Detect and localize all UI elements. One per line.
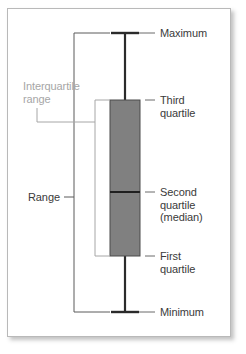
iqr-bracket — [95, 100, 110, 256]
iqr-leader-line — [37, 108, 95, 122]
label-first-quartile: First quartile — [160, 250, 195, 275]
label-second-quartile-median: Second quartile (median) — [160, 186, 203, 224]
iqr-box — [110, 100, 140, 256]
boxplot-graphic — [0, 0, 246, 354]
range-bracket — [74, 33, 110, 312]
label-maximum: Maximum — [160, 27, 207, 40]
boxplot-diagram-screenshot: Maximum Third quartile Second quartile (… — [0, 0, 246, 354]
label-range: Range — [28, 191, 60, 204]
label-third-quartile: Third quartile — [160, 94, 195, 119]
label-minimum: Minimum — [160, 306, 204, 319]
label-interquartile-range: Interquartile range — [23, 80, 103, 105]
